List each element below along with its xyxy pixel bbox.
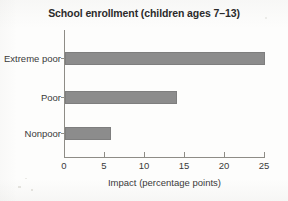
x-axis-tick	[184, 152, 185, 157]
chart-figure: School enrollment (children ages 7–13) 0…	[0, 0, 288, 201]
y-category-label: Nonpoor	[25, 127, 61, 140]
x-axis-title: Impact (percentage points)	[64, 177, 265, 188]
y-category-label: Poor	[41, 91, 61, 104]
bar-poor	[65, 91, 177, 104]
x-tick-label: 25	[259, 160, 270, 171]
y-category-label: Extreme poor	[4, 52, 61, 65]
scan-speck	[18, 186, 21, 188]
x-tick-label: 5	[101, 160, 106, 171]
x-axis-tick	[104, 152, 105, 157]
x-tick-label: 20	[219, 160, 230, 171]
x-axis-tick	[64, 152, 65, 157]
y-axis-tick	[61, 97, 64, 98]
x-tick-label: 0	[61, 160, 66, 171]
y-axis-tick	[61, 58, 64, 59]
chart-title: School enrollment (children ages 7–13)	[0, 7, 288, 19]
x-tick-label: 10	[139, 160, 150, 171]
x-axis-tick	[144, 152, 145, 157]
scan-speck	[31, 189, 33, 191]
x-tick-label: 15	[179, 160, 190, 171]
x-axis-line	[64, 157, 265, 158]
bar-extreme-poor	[65, 52, 265, 65]
y-axis-tick	[61, 133, 64, 134]
scan-speck	[25, 178, 27, 179]
x-axis-tick	[264, 152, 265, 157]
x-axis-tick	[224, 152, 225, 157]
bar-nonpoor	[65, 127, 111, 140]
